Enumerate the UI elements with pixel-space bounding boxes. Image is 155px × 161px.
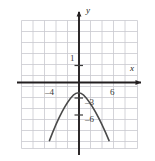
y-tick-label-1: 1 (70, 53, 75, 63)
x-axis-label: x (129, 63, 134, 73)
y-tick-label-neg6: –6 (84, 114, 95, 124)
x-tick-label-neg4: –4 (44, 87, 55, 97)
figure-background (0, 0, 155, 161)
y-tick-label-neg3: –3 (84, 97, 95, 107)
y-axis-label: y (85, 5, 90, 15)
x-tick-label-6: 6 (110, 87, 115, 97)
coordinate-plane-figure: y x –4 6 1 –3 –6 (0, 0, 155, 161)
